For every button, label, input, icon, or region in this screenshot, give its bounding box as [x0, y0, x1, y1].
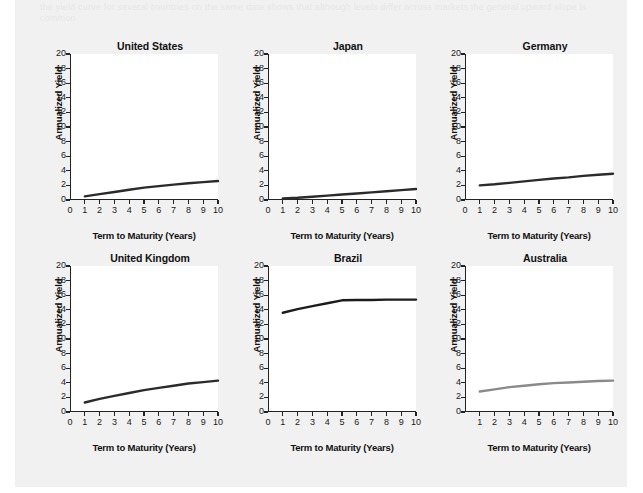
y-tick-label: 2	[242, 179, 264, 189]
x-tick	[129, 412, 130, 416]
x-tick	[598, 200, 599, 204]
chart-panel: GermanyAnnualized YieldTerm to Maturity …	[430, 38, 630, 253]
chart-title: United Kingdom	[65, 252, 235, 264]
x-tick	[173, 412, 174, 416]
x-tick	[297, 200, 298, 204]
x-tick	[173, 200, 174, 204]
yield-curve-series	[268, 266, 416, 412]
plot-area: 02468101214161820012345678910	[268, 54, 416, 200]
y-tick-label: 16	[439, 77, 461, 87]
y-tick-label: 12	[439, 106, 461, 116]
series-line	[283, 300, 416, 313]
x-axis-label: Term to Maturity (Years)	[448, 442, 630, 453]
y-tick-label: 18	[44, 275, 66, 285]
x-tick	[401, 412, 402, 416]
y-tick-label: 2	[439, 179, 461, 189]
y-tick-label: 6	[242, 150, 264, 160]
x-tick	[509, 200, 510, 204]
chart-title: United States	[65, 40, 235, 52]
y-tick-label: 8	[242, 348, 264, 358]
x-tick-label: 10	[208, 205, 228, 215]
y-tick-label: 4	[44, 377, 66, 387]
y-tick-label: 8	[44, 348, 66, 358]
x-axis-label: Term to Maturity (Years)	[53, 442, 235, 453]
x-tick	[612, 200, 613, 204]
x-tick	[84, 412, 85, 416]
x-tick	[282, 412, 283, 416]
x-tick-label: 10	[603, 417, 623, 427]
x-tick	[494, 200, 495, 204]
x-tick	[327, 200, 328, 204]
page-margin-right	[627, 0, 643, 493]
chart-title: Australia	[460, 252, 630, 264]
y-tick-label: 20	[439, 48, 461, 58]
series-line	[85, 181, 218, 196]
scanned-page: the yield curve for several countries on…	[0, 0, 643, 493]
y-tick-label: 0	[242, 406, 264, 416]
plot-area: 0246810121416182012345678910	[465, 266, 613, 412]
y-tick-label: 0	[44, 406, 66, 416]
x-tick	[158, 200, 159, 204]
x-tick	[494, 412, 495, 416]
series-line	[283, 189, 416, 198]
y-tick-label: 0	[44, 194, 66, 204]
y-tick-label: 4	[242, 165, 264, 175]
x-tick	[538, 412, 539, 416]
y-tick-label: 10	[439, 333, 461, 343]
y-tick-label: 10	[242, 121, 264, 131]
x-tick	[203, 412, 204, 416]
x-tick-label: 10	[406, 417, 426, 427]
y-tick-label: 14	[242, 92, 264, 102]
yield-curve-series	[70, 266, 218, 412]
yield-curve-series	[70, 54, 218, 200]
chart-panel: United StatesAnnualized YieldTerm to Mat…	[35, 38, 235, 253]
x-tick	[415, 200, 416, 204]
y-tick-label: 6	[44, 362, 66, 372]
x-tick	[341, 200, 342, 204]
y-tick-label: 4	[44, 165, 66, 175]
y-tick-label: 0	[439, 194, 461, 204]
y-tick-label: 14	[44, 304, 66, 314]
x-tick-label: 10	[603, 205, 623, 215]
chart-title: Germany	[460, 40, 630, 52]
x-tick	[312, 200, 313, 204]
x-tick	[415, 412, 416, 416]
chart-panel: BrazilAnnualized YieldTerm to Maturity (…	[233, 250, 433, 465]
y-tick-label: 10	[44, 121, 66, 131]
y-tick-label: 2	[44, 179, 66, 189]
x-axis-label: Term to Maturity (Years)	[251, 442, 433, 453]
yield-curve-series	[268, 54, 416, 200]
x-tick	[341, 412, 342, 416]
x-tick	[524, 200, 525, 204]
y-tick-label: 16	[44, 289, 66, 299]
x-tick	[84, 200, 85, 204]
y-tick-label: 8	[44, 136, 66, 146]
y-tick-label: 10	[44, 333, 66, 343]
plot-area: 02468101214161820012345678910	[465, 54, 613, 200]
x-tick	[386, 412, 387, 416]
plot-area: 02468101214161820012345678910	[70, 54, 218, 200]
page-margin-left	[0, 0, 15, 493]
x-tick	[568, 200, 569, 204]
x-tick	[143, 412, 144, 416]
chart-title: Brazil	[263, 252, 433, 264]
y-tick-label: 6	[439, 362, 461, 372]
y-tick-label: 6	[439, 150, 461, 160]
y-tick-label: 10	[242, 333, 264, 343]
y-tick-label: 20	[242, 260, 264, 270]
x-tick	[583, 200, 584, 204]
y-tick-label: 16	[242, 289, 264, 299]
y-tick-label: 16	[439, 289, 461, 299]
x-tick	[553, 412, 554, 416]
x-tick	[479, 200, 480, 204]
x-tick	[99, 200, 100, 204]
x-tick	[312, 412, 313, 416]
yield-curve-series	[465, 54, 613, 200]
x-tick-label: 10	[208, 417, 228, 427]
x-tick	[99, 412, 100, 416]
y-tick-label: 18	[439, 63, 461, 73]
y-tick-label: 4	[439, 165, 461, 175]
y-tick-label: 12	[44, 318, 66, 328]
y-tick-label: 20	[44, 48, 66, 58]
y-tick-label: 18	[44, 63, 66, 73]
